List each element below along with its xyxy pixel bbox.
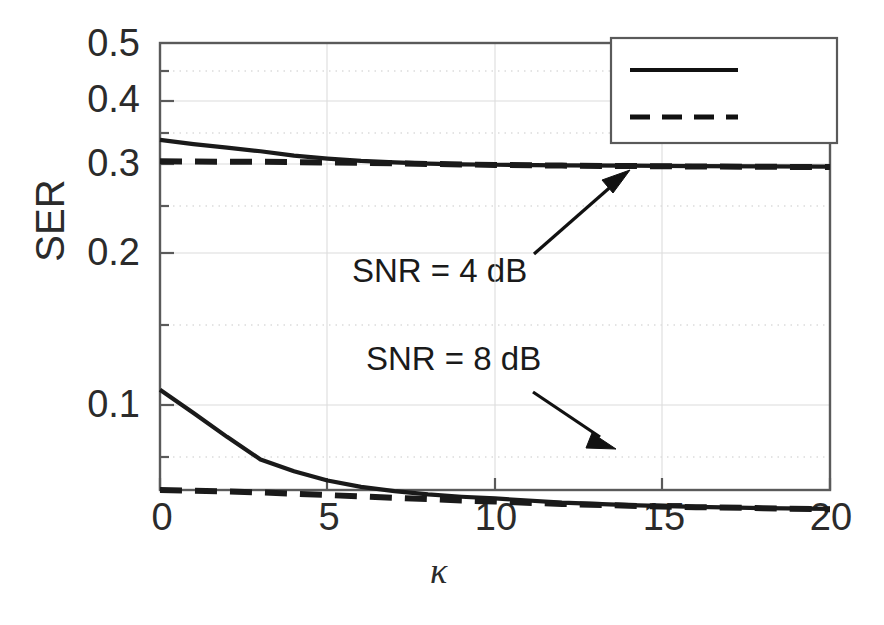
chart-figure: SER 0.5 0.4 0.3 0.2 0.1 0 5 10 15 20 κ S… <box>0 0 884 625</box>
plot-canvas <box>0 0 884 625</box>
x-axis-ticks <box>160 478 830 490</box>
annotation-arrows <box>533 170 630 449</box>
legend-box <box>611 38 837 143</box>
series-line-3 <box>160 490 830 509</box>
